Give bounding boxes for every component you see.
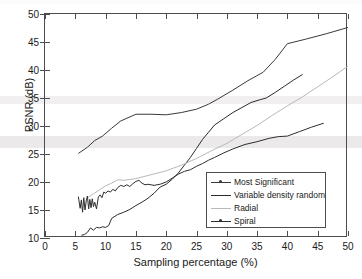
y-tick-mark-inner bbox=[45, 182, 50, 183]
x-tick-mark-top bbox=[75, 14, 76, 19]
legend-item-radial: Radial bbox=[211, 202, 321, 214]
x-tick-mark-top bbox=[45, 14, 46, 19]
x-tick-mark-top bbox=[166, 14, 167, 19]
chart-figure: 101520253035404550 05101520253035404550 … bbox=[0, 0, 362, 279]
legend-line-most-significant bbox=[211, 178, 231, 187]
y-tick-mark-inner bbox=[45, 154, 50, 155]
x-tick-mark bbox=[318, 231, 319, 236]
y-tick-mark-inner bbox=[45, 70, 50, 71]
x-tick-label: 30 bbox=[221, 241, 232, 252]
x-tick-label: 5 bbox=[73, 241, 79, 252]
x-tick-mark bbox=[136, 231, 137, 236]
x-tick-mark bbox=[348, 231, 349, 236]
series-line bbox=[78, 27, 348, 153]
x-tick-label: 40 bbox=[282, 241, 293, 252]
chart-legend: Most Significant Variable density random… bbox=[206, 172, 326, 228]
x-tick-mark bbox=[257, 231, 258, 236]
x-tick-mark-top bbox=[287, 14, 288, 19]
y-tick-mark-inner bbox=[45, 238, 50, 239]
y-tick-label: 10 bbox=[28, 233, 39, 244]
y-tick-mark-inner bbox=[45, 126, 50, 127]
x-tick-mark-top bbox=[136, 14, 137, 19]
x-tick-label: 0 bbox=[42, 241, 48, 252]
x-tick-mark bbox=[75, 231, 76, 236]
x-tick-mark-top bbox=[257, 14, 258, 19]
x-tick-label: 10 bbox=[100, 241, 111, 252]
x-tick-label: 50 bbox=[342, 241, 353, 252]
legend-item-spiral: Spiral bbox=[211, 215, 321, 227]
x-tick-mark bbox=[45, 231, 46, 236]
y-tick-label: 20 bbox=[28, 177, 39, 188]
legend-label-spiral: Spiral bbox=[234, 216, 256, 226]
x-tick-mark bbox=[166, 231, 167, 236]
y-axis-title: PSNR (dB) bbox=[23, 60, 35, 150]
y-tick-label: 15 bbox=[28, 205, 39, 216]
legend-line-variable-density-random bbox=[211, 191, 231, 200]
x-tick-mark bbox=[106, 231, 107, 236]
x-tick-mark-top bbox=[106, 14, 107, 19]
x-tick-label: 45 bbox=[312, 241, 323, 252]
scan-band-top bbox=[0, 0, 362, 4]
y-tick-label: 50 bbox=[28, 9, 39, 20]
y-tick-mark-inner bbox=[45, 210, 50, 211]
x-tick-label: 25 bbox=[191, 241, 202, 252]
legend-label-radial: Radial bbox=[234, 203, 258, 213]
legend-label-variable-density-random: Variable density random bbox=[234, 190, 325, 200]
y-tick-label: 45 bbox=[28, 37, 39, 48]
legend-label-most-significant: Most Significant bbox=[234, 177, 294, 187]
x-tick-mark bbox=[227, 231, 228, 236]
x-tick-mark-top bbox=[227, 14, 228, 19]
legend-item-variable-density-random: Variable density random bbox=[211, 189, 321, 201]
y-tick-mark-inner bbox=[45, 98, 50, 99]
x-tick-label: 35 bbox=[252, 241, 263, 252]
y-tick-mark-inner bbox=[45, 42, 50, 43]
legend-item-most-significant: Most Significant bbox=[211, 176, 321, 188]
x-tick-mark-top bbox=[197, 14, 198, 19]
x-tick-label: 20 bbox=[161, 241, 172, 252]
x-tick-mark bbox=[287, 231, 288, 236]
x-tick-mark bbox=[197, 231, 198, 236]
legend-line-radial bbox=[211, 204, 231, 213]
x-tick-mark-top bbox=[318, 14, 319, 19]
x-tick-label: 15 bbox=[130, 241, 141, 252]
y-tick-label: 25 bbox=[28, 149, 39, 160]
x-tick-mark-top bbox=[348, 14, 349, 19]
x-axis-title: Sampling percentage (%) bbox=[44, 256, 347, 268]
legend-line-spiral bbox=[211, 217, 231, 226]
